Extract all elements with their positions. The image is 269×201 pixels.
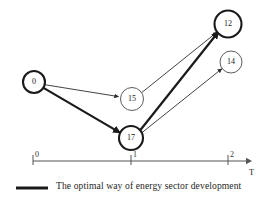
energy-sector-development-graph: 0 15 17 12 14	[0, 0, 269, 201]
node-14-label: 14	[227, 57, 235, 66]
node-14[interactable]: 14	[220, 51, 242, 73]
node-17-label: 17	[127, 133, 135, 142]
time-axis: 0 1 2 T	[33, 150, 255, 177]
axis-name-label: T	[249, 167, 255, 177]
node-12[interactable]: 12	[215, 11, 242, 38]
node-0[interactable]: 0	[23, 71, 45, 93]
node-15-label: 15	[128, 94, 136, 103]
node-group: 0 15 17 12 14	[23, 11, 242, 151]
axis-tick-label-0: 0	[35, 150, 39, 159]
node-0-label: 0	[32, 77, 36, 86]
edge-15-to-12	[142, 32, 218, 93]
edge-group	[44, 32, 222, 133]
node-15[interactable]: 15	[121, 88, 144, 111]
axis-tick-label-1: 1	[133, 150, 137, 159]
axis-tick-label-2: 2	[230, 150, 234, 159]
node-12-label: 12	[224, 19, 232, 28]
legend-label: The optimal way of energy sector develop…	[56, 180, 241, 191]
diagram-figure: 0 15 17 12 14	[0, 0, 269, 201]
axis-arrowhead	[246, 158, 252, 164]
node-17[interactable]: 17	[119, 126, 143, 150]
